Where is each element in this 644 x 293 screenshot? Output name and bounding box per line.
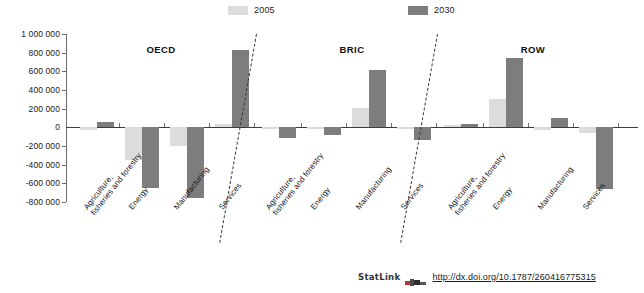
bar-row-services-2005 (579, 127, 596, 133)
bar-bric-services-2030 (414, 127, 431, 140)
category-tick (164, 123, 165, 127)
y-axis-tick (62, 146, 66, 147)
category-tick (436, 123, 437, 127)
bar-bric-energy-2030 (324, 127, 341, 135)
y-tick-label: 800 000 (29, 48, 60, 58)
bar-bric-agriculture-2030 (279, 127, 296, 137)
group-title-row: ROW (521, 44, 545, 55)
y-axis-line (66, 34, 67, 202)
y-tick-label: -800 000 (26, 197, 60, 207)
bar-oecd-manufacturing-2005 (170, 127, 187, 146)
category-tick (119, 123, 120, 127)
legend-label-2005: 2005 (254, 5, 275, 15)
bar-bric-manufacturing-2030 (369, 70, 386, 127)
bar-row-agriculture-2030 (461, 124, 478, 127)
y-axis-labels: 1 000 000800 000600 000400 000200 0000-2… (0, 34, 60, 202)
y-axis-tick (62, 109, 66, 110)
y-axis-tick (62, 165, 66, 166)
y-tick-label: -200 000 (26, 141, 60, 151)
y-tick-label: 1 000 000 (21, 29, 60, 39)
legend-swatch-2030 (408, 6, 428, 15)
statlink-icon (405, 273, 427, 282)
bar-oecd-agriculture-2005 (80, 127, 97, 129)
y-axis-tick (62, 71, 66, 72)
bar-row-services-2030 (596, 127, 613, 189)
category-tick (618, 123, 619, 127)
chart-legend: 2005 2030 (0, 4, 644, 20)
y-tick-label: 200 000 (29, 104, 60, 114)
category-tick (573, 123, 574, 127)
y-tick-label: 400 000 (29, 85, 60, 95)
legend-swatch-2005 (228, 6, 248, 15)
legend-entry-2005: 2005 (228, 5, 275, 15)
category-tick (254, 123, 255, 127)
bar-bric-agriculture-2005 (262, 127, 279, 128)
group-title-oecd: OECD (146, 44, 175, 55)
y-tick-label: -400 000 (26, 160, 60, 170)
category-tick (391, 123, 392, 127)
bar-row-manufacturing-2030 (551, 118, 568, 127)
y-tick-label: 600 000 (29, 66, 60, 76)
y-axis-tick (62, 202, 66, 203)
category-tick (301, 123, 302, 127)
y-axis-tick (62, 53, 66, 54)
bar-row-energy-2005 (489, 99, 506, 127)
statlink-label: StatLink (358, 272, 400, 282)
y-axis-tick (62, 34, 66, 35)
category-tick (483, 123, 484, 127)
bar-oecd-energy-2030 (142, 127, 159, 188)
group-title-bric: BRIC (340, 44, 365, 55)
bar-bric-services-2005 (397, 127, 414, 128)
legend-entry-2030: 2030 (408, 5, 455, 15)
statlink-footer: StatLink http://dx.doi.org/10.1787/26041… (358, 272, 596, 282)
y-axis-tick (62, 90, 66, 91)
category-tick (346, 123, 347, 127)
legend-label-2030: 2030 (434, 5, 455, 15)
bar-row-agriculture-2005 (444, 125, 461, 128)
bar-bric-energy-2005 (307, 127, 324, 128)
bar-oecd-agriculture-2030 (97, 122, 114, 128)
category-tick (528, 123, 529, 127)
plot-area (66, 34, 638, 202)
bar-row-energy-2030 (506, 58, 523, 128)
bar-oecd-services-2005 (215, 124, 232, 127)
y-tick-label: -600 000 (26, 178, 60, 188)
category-tick (209, 123, 210, 127)
y-axis-tick (62, 183, 66, 184)
bar-row-manufacturing-2005 (534, 127, 551, 130)
y-tick-label: 0 (55, 122, 60, 132)
statlink-url[interactable]: http://dx.doi.org/10.1787/260416775315 (432, 272, 595, 282)
bar-bric-manufacturing-2005 (352, 108, 369, 128)
